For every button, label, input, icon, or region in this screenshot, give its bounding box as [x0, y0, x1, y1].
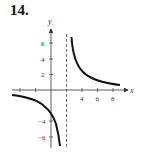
svg-text:6: 6	[41, 40, 45, 48]
svg-text:4: 4	[41, 56, 45, 64]
svg-text:8: 8	[111, 95, 115, 103]
svg-text:−6: −6	[38, 134, 46, 142]
svg-text:6: 6	[96, 95, 100, 103]
x-axis-label: x	[129, 86, 134, 95]
svg-text:−4: −4	[38, 118, 46, 126]
right-branch	[72, 37, 121, 85]
y-axis-label: y	[47, 17, 52, 26]
left-branch	[12, 95, 60, 146]
svg-text:2: 2	[41, 71, 45, 79]
svg-text:4: 4	[80, 95, 84, 103]
graph: x y 4 6 8 6 4 2 −4 −6	[0, 0, 144, 157]
